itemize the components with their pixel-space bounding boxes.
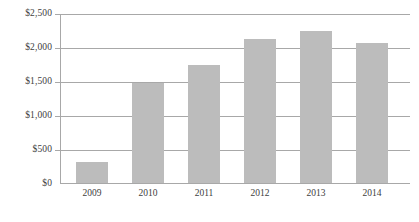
y-axis-tick-label: $2,500	[25, 9, 52, 19]
bar-2011	[188, 65, 220, 184]
x-axis-tick-label-2012: 2012	[230, 188, 290, 199]
y-axis-tick-label: $1,500	[25, 77, 52, 87]
x-axis-label-group: 2009 2010 2011 2012 2013 2014	[60, 188, 396, 208]
x-axis-tick-label-2014: 2014	[342, 188, 402, 199]
bar-2010	[132, 83, 164, 184]
y-axis-tick-label: $0	[42, 179, 52, 189]
bar-2014	[356, 43, 388, 184]
y-axis-tick-label: $500	[33, 145, 52, 155]
x-axis-line	[60, 183, 410, 184]
x-axis-tick-label-2013: 2013	[286, 188, 346, 199]
bar-2009	[76, 162, 108, 184]
bar-chart: $2,500 $2,000 $1,500 $1,000 $500 $0	[0, 0, 419, 222]
plot-area	[60, 14, 396, 184]
x-axis-tick-label-2011: 2011	[174, 188, 234, 199]
bar-2012	[244, 39, 276, 184]
y-axis-tick-label: $2,000	[25, 43, 52, 53]
x-axis-tick-label-2010: 2010	[118, 188, 178, 199]
bars-layer	[60, 14, 396, 184]
bar-2013	[300, 31, 332, 184]
x-axis-tick-label-2009: 2009	[62, 188, 122, 199]
y-axis-tick-label: $1,000	[25, 111, 52, 121]
y-axis-label-group: $2,500 $2,000 $1,500 $1,000 $500 $0	[0, 0, 52, 222]
